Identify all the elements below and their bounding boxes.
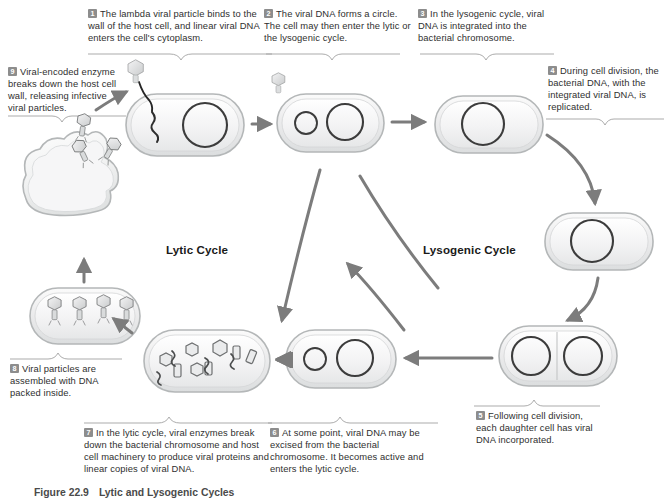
step-number-5: 5 [476, 411, 485, 420]
step-number-1: 1 [88, 9, 97, 18]
step-number-9: 9 [8, 67, 17, 76]
callout-step-2: 2The viral DNA forms a circle. The cell … [264, 8, 412, 44]
callout-step-6: 6At some point, viral DNA may be excised… [270, 427, 438, 475]
callout-step-9: 9Viral-encoded enzyme breaks down the ho… [8, 66, 126, 114]
arrow-6-up [348, 264, 404, 330]
callout-step-8: 8Viral particles are assembled with DNA … [10, 363, 122, 399]
step-text-3: In the lysogenic cycle, viral DNA is int… [418, 8, 544, 43]
cell-step-4 [545, 213, 653, 270]
step-text-7: In the lytic cycle, viral enzymes break … [84, 427, 269, 474]
figure-number: Figure 22.9 [34, 487, 89, 498]
phage-attached [128, 60, 143, 83]
cell-step-1 [126, 60, 244, 156]
cell-step-9-lysing [23, 113, 123, 216]
callout-step-4: 4During cell division, the bacterial DNA… [548, 65, 664, 113]
cell-step-6 [286, 330, 396, 388]
step-number-7: 7 [84, 428, 93, 437]
callout-step-1: 1The lambda viral particle binds to the … [88, 8, 270, 44]
step-text-8: Viral particles are assembled with DNA p… [10, 363, 98, 398]
step-number-3: 3 [418, 9, 427, 18]
step-text-9: Viral-encoded enzyme breaks down the hos… [8, 66, 116, 113]
figure-caption: Figure 22.9Lytic and Lysogenic Cycles [34, 487, 234, 498]
figure-title: Lytic and Lysogenic Cycles [99, 487, 235, 498]
step-number-4: 4 [548, 66, 557, 75]
lytic-lysogenic-cycle-figure: 1The lambda viral particle binds to the … [0, 0, 669, 498]
arrow-3-to-4 [547, 135, 595, 203]
arrow-lytic-branch [282, 170, 320, 320]
lysogenic-cycle-label: Lysogenic Cycle [423, 243, 516, 256]
step-number-8: 8 [10, 364, 19, 373]
step-text-2: The viral DNA forms a circle. The cell m… [264, 8, 411, 43]
step-text-6: At some point, viral DNA may be excised … [270, 427, 424, 474]
step-number-2: 2 [264, 9, 273, 18]
cell-step-2 [272, 73, 384, 152]
step-text-4: During cell division, the bacterial DNA,… [548, 65, 659, 112]
callout-step-7: 7In the lytic cycle, viral enzymes break… [84, 427, 272, 475]
cell-step-5 [499, 326, 617, 386]
arrow-4-to-5 [568, 278, 598, 320]
step-text-5: Following cell division, each daughter c… [476, 410, 593, 445]
callout-step-3: 3In the lysogenic cycle, viral DNA is in… [418, 8, 560, 44]
arrow-lysogenic-branch [360, 176, 438, 288]
cell-step-7 [144, 330, 270, 392]
step-text-1: The lambda viral particle binds to the w… [88, 8, 259, 43]
cell-step-3 [435, 96, 543, 153]
cell-step-8 [30, 288, 140, 344]
callout-step-5: 5Following cell division, each daughter … [476, 410, 606, 446]
phage-remnant [272, 73, 285, 93]
lytic-cycle-label: Lytic Cycle [166, 243, 228, 256]
